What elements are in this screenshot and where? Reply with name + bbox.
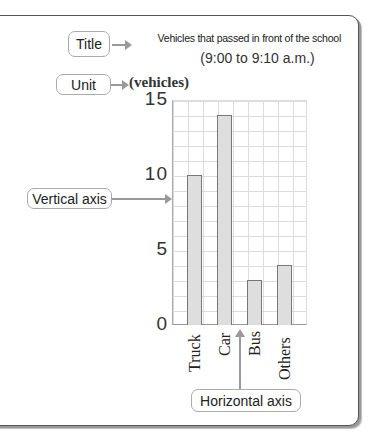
horizontal-axis-callout-label: Horizontal axis xyxy=(200,393,292,409)
x-label-truck: Truck xyxy=(186,334,204,372)
x-label-others: Others xyxy=(276,338,294,381)
horizontal-axis-callout: Horizontal axis xyxy=(191,389,301,412)
bar-bus xyxy=(247,280,262,325)
unit-callout-label: Unit xyxy=(71,77,96,93)
x-label-bus: Bus xyxy=(246,331,264,356)
vertical-axis-arrow-icon xyxy=(112,198,166,200)
unit-arrow-icon xyxy=(111,84,123,86)
ytick-15: 15 xyxy=(138,88,168,110)
bar-others xyxy=(277,265,292,325)
ytick-5: 5 xyxy=(138,238,168,260)
vertical-axis-callout-label: Vertical axis xyxy=(32,191,107,207)
chart-subtitle: (9:00 to 9:10 a.m.) xyxy=(150,50,365,66)
title-arrow-icon xyxy=(112,44,126,46)
ytick-0: 0 xyxy=(138,313,168,335)
vertical-axis-callout: Vertical axis xyxy=(27,188,112,209)
ytick-10: 10 xyxy=(138,163,168,185)
x-label-car: Car xyxy=(216,332,234,355)
unit-callout: Unit xyxy=(56,74,111,95)
chart-title: Vehicles that passed in front of the sch… xyxy=(155,32,344,44)
bar-truck xyxy=(187,175,202,325)
title-callout-label: Title xyxy=(76,36,102,52)
bar-car xyxy=(217,115,232,325)
title-callout: Title xyxy=(68,31,110,57)
horizontal-axis-arrow-icon xyxy=(239,336,241,389)
